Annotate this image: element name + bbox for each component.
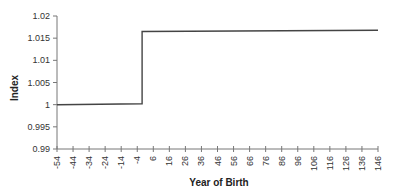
x-tick-label: 126 bbox=[341, 156, 351, 171]
x-tick-label: -24 bbox=[100, 156, 110, 169]
x-tick-label: 86 bbox=[277, 156, 287, 166]
x-axis: -54-44-34-24-14-461626364656667686961061… bbox=[52, 146, 383, 171]
data-series bbox=[57, 30, 378, 105]
x-tick-label: 36 bbox=[196, 156, 206, 166]
y-axis-title: Index bbox=[9, 75, 20, 102]
x-tick-label: 16 bbox=[164, 156, 174, 166]
x-tick-label: 6 bbox=[148, 156, 158, 161]
y-tick-label: 1 bbox=[45, 100, 50, 110]
x-tick-label: 26 bbox=[180, 156, 190, 166]
x-tick-label: 66 bbox=[245, 156, 255, 166]
y-tick-label: 1.01 bbox=[32, 55, 50, 65]
x-tick-label: 136 bbox=[357, 156, 367, 171]
x-tick-label: -4 bbox=[132, 156, 142, 164]
y-tick-label: 1.005 bbox=[27, 78, 50, 88]
x-tick-label: 146 bbox=[373, 156, 383, 171]
x-axis-title: Year of Birth bbox=[189, 177, 248, 188]
x-tick-label: 116 bbox=[325, 156, 335, 170]
y-tick-label: 0.995 bbox=[27, 122, 50, 132]
series-line bbox=[57, 30, 378, 105]
x-tick-label: -14 bbox=[116, 156, 126, 169]
x-tick-label: 96 bbox=[293, 156, 303, 166]
x-tick-label: 76 bbox=[261, 156, 271, 166]
y-tick-label: 1.02 bbox=[32, 11, 50, 21]
x-tick-label: -44 bbox=[68, 156, 78, 169]
y-axis: 0.990.99511.0051.011.0151.02 bbox=[27, 11, 57, 154]
y-tick-label: 0.99 bbox=[32, 144, 50, 154]
x-tick-label: 106 bbox=[309, 156, 319, 171]
x-tick-label: -34 bbox=[84, 156, 94, 169]
x-tick-label: -54 bbox=[52, 156, 62, 169]
y-tick-label: 1.015 bbox=[27, 33, 50, 43]
x-tick-label: 46 bbox=[213, 156, 223, 166]
x-tick-label: 56 bbox=[229, 156, 239, 166]
step-line-chart: 0.990.99511.0051.011.0151.02 -54-44-34-2… bbox=[0, 0, 397, 195]
